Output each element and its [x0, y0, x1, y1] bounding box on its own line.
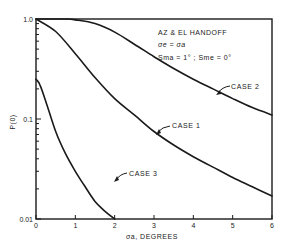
y-axis-title: P(0) — [9, 114, 17, 129]
axis-ticks — [36, 24, 272, 219]
case-1-text: CASE 1 — [172, 122, 201, 129]
curve-case-2 — [36, 19, 272, 115]
annotation-line-1: AZ & EL HANDOFF — [158, 29, 227, 36]
case-1-label: CASE 1 — [156, 122, 201, 135]
x-tick-label: 0 — [34, 222, 38, 229]
case-2-text: CASE 2 — [231, 83, 260, 90]
y-tick-label: 0.1 — [23, 116, 33, 123]
annotation-line-3: Sma = 1° ; Sme = 0° — [158, 54, 231, 61]
x-tick-label: 3 — [152, 222, 156, 229]
x-tick-label: 4 — [191, 222, 195, 229]
x-tick-label: 1 — [73, 222, 77, 229]
curve-case-3 — [36, 79, 115, 219]
axis-tick-labels: 01234560.010.11.0 — [19, 16, 274, 230]
chart: 01234560.010.11.0 P(0) σa, DEGREES AZ & … — [0, 0, 286, 250]
y-tick-label: 0.01 — [19, 216, 33, 223]
annotation-line-2: σe = σa — [158, 41, 186, 48]
x-axis-title: σa, DEGREES — [126, 233, 178, 240]
data-curves — [36, 19, 272, 219]
x-tick-label: 6 — [270, 222, 274, 229]
case-3-text: CASE 3 — [129, 170, 158, 177]
x-tick-label: 2 — [113, 222, 117, 229]
y-tick-label: 1.0 — [23, 16, 33, 23]
case-3-label: CASE 3 — [114, 170, 158, 182]
x-tick-label: 5 — [231, 222, 235, 229]
annotation-block: AZ & EL HANDOFF σe = σa Sma = 1° ; Sme =… — [158, 29, 231, 61]
